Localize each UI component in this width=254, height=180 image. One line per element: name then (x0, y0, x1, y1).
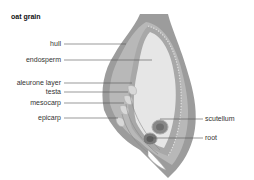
label-aleurone-layer: aleurone layer (17, 79, 61, 87)
label-testa: testa (46, 88, 61, 96)
label-endosperm: endosperm (26, 56, 61, 64)
label-root: root (205, 134, 217, 142)
label-hull: hull (50, 40, 61, 48)
label-mesocarp: mesocarp (30, 99, 61, 107)
oat-grain-illustration (0, 0, 254, 180)
label-scutellum: scutellum (205, 115, 235, 123)
label-epicarp: epicarp (38, 114, 61, 122)
